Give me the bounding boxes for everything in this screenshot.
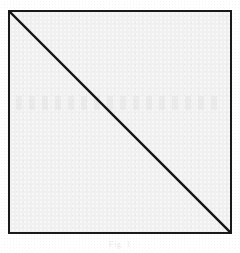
- diagonal-line: [10, 12, 230, 232]
- figure-canvas: Fig. 1: [0, 0, 240, 253]
- square-shape: [8, 10, 232, 234]
- figure-caption: Fig. 1: [0, 240, 240, 249]
